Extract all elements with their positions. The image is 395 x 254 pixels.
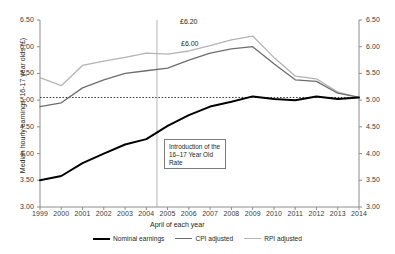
legend-item-cpi-adjusted[interactable]: CPI adjusted [175, 235, 233, 242]
annotation-line-2: 16–17 Year Old [169, 151, 221, 159]
plot-area [0, 0, 395, 254]
chart-legend: Nominal earningsCPI adjustedRPI adjusted [0, 235, 395, 242]
data-label-cpi-peak: £6.00 [181, 40, 199, 47]
annotation-line-3: Rate [169, 159, 221, 167]
annotation-introduction-box: Introduction of the 16–17 Year Old Rate [164, 139, 226, 169]
legend-label: RPI adjusted [264, 235, 302, 242]
chart-container: Median hourly earnings, 16-17 year olds … [0, 0, 395, 254]
legend-label: CPI adjusted [195, 235, 233, 242]
data-label-rpi-peak: £6.20 [180, 18, 198, 25]
legend-item-rpi-adjusted[interactable]: RPI adjusted [244, 235, 302, 242]
legend-item-nominal-earnings[interactable]: Nominal earnings [93, 235, 164, 242]
legend-swatch-icon [93, 238, 110, 240]
annotation-line-1: Introduction of the [169, 143, 221, 151]
legend-swatch-icon [175, 238, 192, 239]
legend-swatch-icon [244, 238, 261, 239]
legend-label: Nominal earnings [113, 235, 164, 242]
series-line-rpi-adjusted [40, 36, 359, 97]
